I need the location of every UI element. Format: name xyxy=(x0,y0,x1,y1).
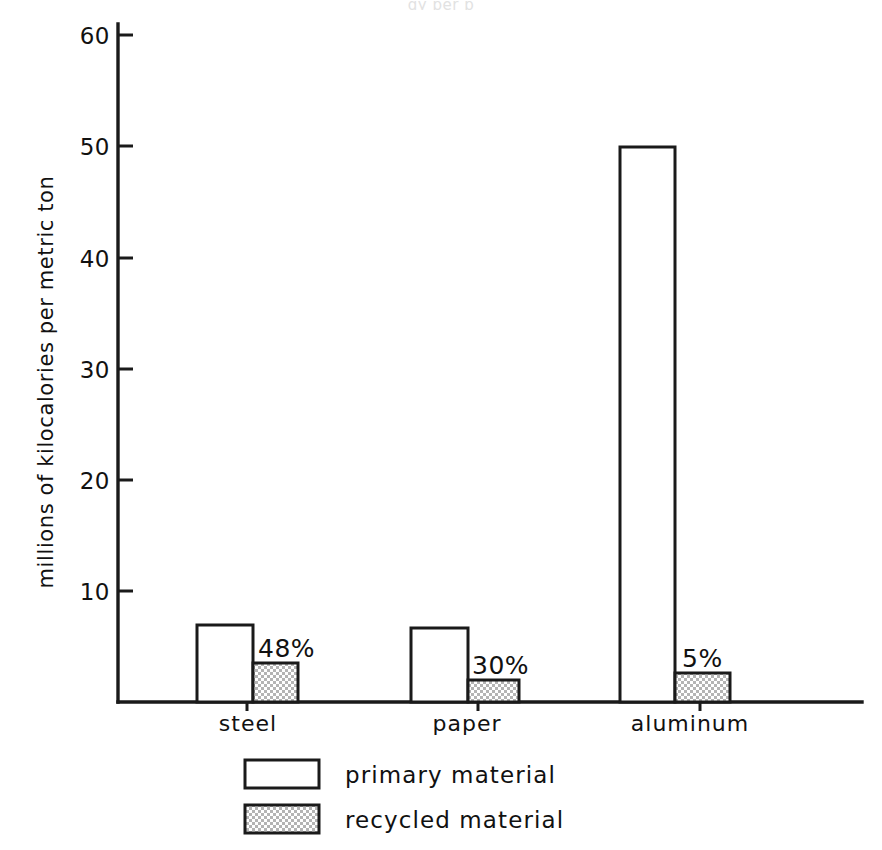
bar-group-aluminum: 5% aluminum xyxy=(620,147,749,736)
y-tick-label-40: 40 xyxy=(80,246,110,272)
y-tick-label-50: 50 xyxy=(80,134,110,160)
plot-area: 60 50 40 30 20 10 48% steel 30% paper xyxy=(0,0,882,850)
legend-label-primary: primary material xyxy=(345,762,556,788)
legend-swatch-primary xyxy=(245,760,319,788)
bar-steel-primary xyxy=(197,625,253,702)
bar-steel-recycled xyxy=(253,663,298,702)
y-tick-label-60: 60 xyxy=(80,23,110,49)
annotation-steel-percent: 48% xyxy=(258,634,315,663)
bar-aluminum-recycled xyxy=(675,673,730,702)
x-axis-label-paper: paper xyxy=(433,711,502,736)
y-axis-tick-labels: 60 50 40 30 20 10 xyxy=(80,23,110,605)
y-axis-ticks xyxy=(118,35,133,591)
x-axis-label-steel: steel xyxy=(219,711,277,736)
bar-aluminum-primary xyxy=(620,147,675,702)
bar-group-steel: 48% steel xyxy=(197,625,315,736)
y-tick-label-10: 10 xyxy=(80,579,110,605)
bar-group-paper: 30% paper xyxy=(411,628,529,736)
bar-paper-recycled xyxy=(468,680,519,702)
annotation-aluminum-percent: 5% xyxy=(682,644,723,673)
legend-label-recycled: recycled material xyxy=(345,807,564,833)
legend-swatch-recycled xyxy=(245,805,319,833)
y-tick-label-30: 30 xyxy=(80,357,110,383)
bar-paper-primary xyxy=(411,628,468,702)
annotation-paper-percent: 30% xyxy=(472,651,529,680)
legend: primary material recycled material xyxy=(245,760,564,833)
y-tick-label-20: 20 xyxy=(80,468,110,494)
bar-chart-figure: gy per p millions of kilocalories per me… xyxy=(0,0,882,850)
x-axis-label-aluminum: aluminum xyxy=(631,711,749,736)
